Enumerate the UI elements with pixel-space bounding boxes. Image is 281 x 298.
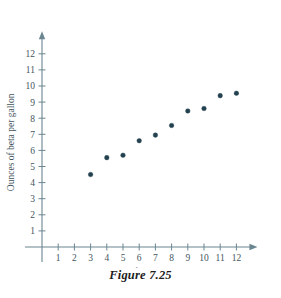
y-tick-label: 5 — [30, 162, 35, 172]
y-tick-label: 10 — [26, 81, 36, 91]
data-point — [121, 153, 126, 158]
x-tick-label: 5 — [121, 253, 126, 263]
figure-caption: Figure 7.25 — [109, 268, 172, 283]
x-tick-label: 1 — [56, 253, 61, 263]
x-tick-label: 2 — [72, 253, 77, 263]
x-tick-label: 12 — [232, 253, 242, 263]
scatter-plot: 123456789101112 123456789101112 Ounces o… — [0, 0, 281, 268]
y-tick-label: 12 — [26, 49, 36, 59]
caption-bar: Figure 7.25 — [0, 268, 281, 298]
x-tick-label: 6 — [137, 253, 142, 263]
x-tick-label: 11 — [216, 253, 225, 263]
y-tick-label: 2 — [30, 210, 35, 220]
data-point — [88, 172, 93, 177]
x-tick-label: 9 — [185, 253, 190, 263]
axes-group — [25, 31, 257, 262]
y-tick-label: 1 — [30, 226, 35, 236]
data-point — [153, 133, 158, 138]
y-tick-label: 8 — [30, 114, 35, 124]
x-tick-label: 4 — [104, 253, 109, 263]
y-axis-label: Ounces of beta per gallon — [6, 93, 16, 191]
data-point — [202, 106, 207, 111]
y-tick-label: 11 — [26, 65, 35, 75]
y-tick-label: 6 — [30, 146, 35, 156]
data-points — [88, 91, 238, 177]
data-point — [169, 123, 174, 128]
y-tick-label: 4 — [30, 178, 35, 188]
data-point — [105, 155, 110, 160]
x-tick-label: 3 — [88, 253, 93, 263]
data-point — [137, 138, 142, 143]
x-axis-arrow-icon — [249, 244, 257, 250]
y-tick-label: 7 — [30, 130, 35, 140]
y-axis-arrow-icon — [39, 31, 45, 39]
chart-canvas: 123456789101112 123456789101112 Ounces o… — [0, 0, 281, 268]
data-point — [234, 91, 239, 96]
x-tick-label: 7 — [153, 253, 158, 263]
x-tick-label: 8 — [169, 253, 174, 263]
figure-container: 123456789101112 123456789101112 Ounces o… — [0, 0, 281, 298]
y-tick-label: 3 — [30, 194, 35, 204]
data-point — [218, 93, 223, 98]
data-point — [186, 109, 191, 114]
x-axis-ticks: 123456789101112 — [56, 244, 242, 264]
y-tick-label: 9 — [30, 98, 35, 108]
x-tick-label: 10 — [199, 253, 209, 263]
